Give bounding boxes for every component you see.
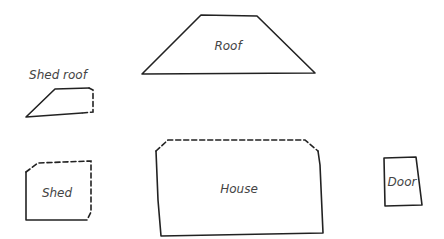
roof-label: Roof — [214, 39, 241, 53]
shed-label: Shed — [42, 186, 72, 200]
house-label: House — [220, 182, 258, 196]
diagram-canvas — [0, 0, 444, 239]
shed-roof-label: Shed roof — [29, 68, 87, 82]
shed-roof-shape — [26, 88, 93, 117]
door-label: Door — [388, 175, 417, 189]
